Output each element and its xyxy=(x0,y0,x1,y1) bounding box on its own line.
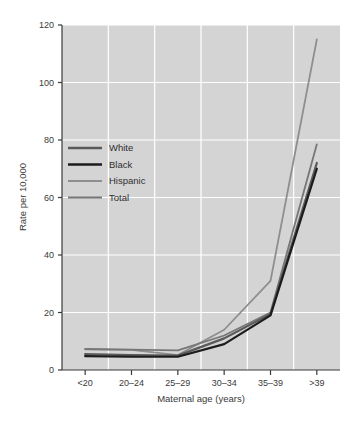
x-tick-label: 25–29 xyxy=(165,378,190,388)
y-tick-labels: 020406080100120 xyxy=(39,20,54,375)
x-tick-labels: <2020–2425–2930–3435–39>39 xyxy=(78,378,325,388)
y-tick-label: 100 xyxy=(39,78,54,88)
y-tick-label: 60 xyxy=(44,193,54,203)
x-tick-label: <20 xyxy=(78,378,93,388)
x-tick-label: 30–34 xyxy=(212,378,237,388)
y-tick-label: 40 xyxy=(44,250,54,260)
legend-label-total: Total xyxy=(109,192,129,203)
y-tick-label: 20 xyxy=(44,308,54,318)
y-tick-label: 120 xyxy=(39,20,54,30)
chart-figure: 020406080100120 <2020–2425–2930–3435–39>… xyxy=(0,0,356,422)
x-tick-label: >39 xyxy=(309,378,324,388)
y-tick-label: 0 xyxy=(49,365,54,375)
x-tick-label: 20–24 xyxy=(119,378,144,388)
x-axis-title: Maternal age (years) xyxy=(157,393,245,404)
y-tick-label: 80 xyxy=(44,135,54,145)
y-axis-title: Rate per 10,000 xyxy=(17,163,28,231)
line-chart: 020406080100120 <2020–2425–2930–3435–39>… xyxy=(0,0,356,422)
legend-label-black: Black xyxy=(109,159,132,170)
x-tick-label: 35–39 xyxy=(258,378,283,388)
legend-label-white: White xyxy=(109,142,133,153)
legend-label-hispanic: Hispanic xyxy=(109,175,146,186)
